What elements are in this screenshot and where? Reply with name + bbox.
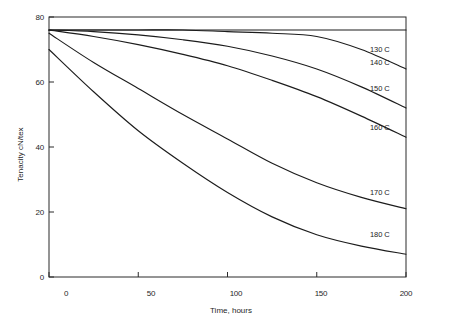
curve-140c (49, 30, 406, 69)
plot-frame (49, 17, 406, 277)
x-axis-title: Time, hours (176, 306, 286, 315)
y-axis-title: Tenacity cN/tex (16, 105, 25, 205)
y-axis-tick-label-40: 40 (22, 143, 44, 152)
series-label-130c: 130 C (370, 45, 390, 54)
x-axis-tick-label-100: 100 (226, 289, 246, 298)
curve-150c (49, 30, 406, 108)
series-label-160c: 160 C (370, 123, 390, 132)
x-axis-tick-label-50: 50 (141, 289, 161, 298)
curve-170c (49, 33, 406, 209)
series-label-140c: 140 C (370, 58, 390, 67)
chart-figure: 80 60 40 20 0 0 50 100 150 200 Tenacity … (0, 0, 459, 331)
y-axis-tick-label-80: 80 (22, 13, 44, 22)
y-axis-tick-label-0: 0 (22, 273, 44, 282)
axis-tickmarks (49, 17, 406, 277)
y-axis-tick-label-60: 60 (22, 78, 44, 87)
x-axis-tick-label-200: 200 (396, 289, 416, 298)
x-axis-tick-label-0: 0 (56, 289, 76, 298)
series-label-180c: 180 C (370, 230, 390, 239)
curve-180c (49, 50, 406, 255)
x-axis-tick-label-150: 150 (311, 289, 331, 298)
series-curves (49, 30, 406, 254)
series-label-170c: 170 C (370, 188, 390, 197)
y-axis-tick-label-20: 20 (22, 208, 44, 217)
series-label-150c: 150 C (370, 84, 390, 93)
plot-area (0, 0, 459, 331)
